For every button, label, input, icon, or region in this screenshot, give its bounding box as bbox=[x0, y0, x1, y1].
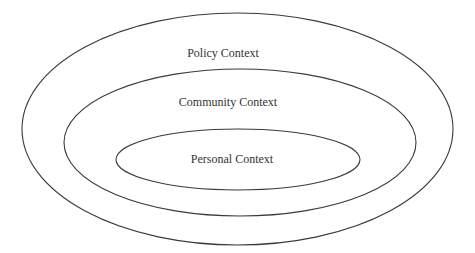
nested-context-diagram: Policy Context Community Context Persona… bbox=[0, 0, 475, 253]
policy-context-label: Policy Context bbox=[187, 46, 259, 60]
personal-context-label: Personal Context bbox=[191, 152, 274, 166]
community-context-label: Community Context bbox=[179, 95, 278, 109]
community-context-ellipse bbox=[64, 69, 416, 216]
